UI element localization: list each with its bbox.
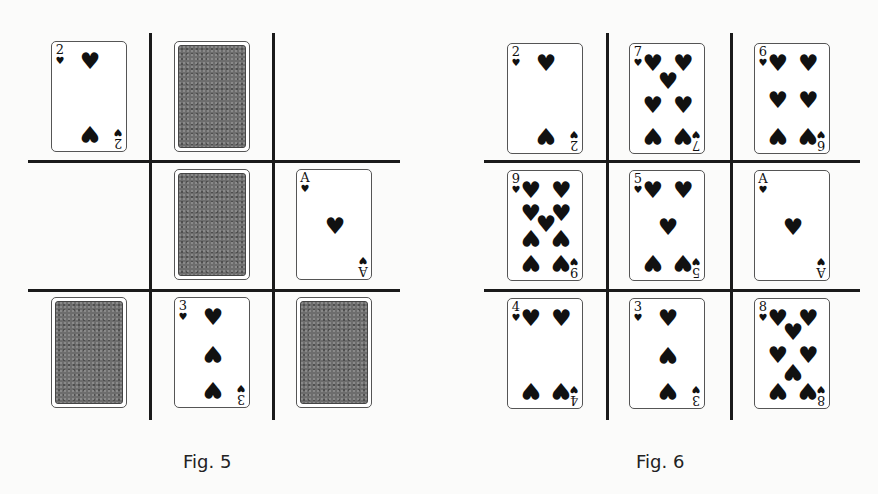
heart-suit-icon: ♥ [55,56,65,66]
card-5-of-hearts[interactable]: 5♥5♥♥♥♥♥♥ [629,170,705,281]
heart-pip-icon: ♥ [642,95,663,115]
card-2-of-hearts[interactable]: 2♥2♥♥♥ [507,43,583,154]
grid-vertical-line [149,33,152,420]
heart-pip-icon: ♥ [798,90,819,110]
card-index-bottom: 2♥ [569,129,579,151]
card-back-pattern [300,301,368,404]
grid-horizontal-line [28,160,400,163]
grid-horizontal-line [484,160,860,163]
card-index-top: 2♥ [55,44,65,66]
heart-pip-icon: ♥ [551,253,572,273]
card-rank-label: 2 [114,136,122,151]
card-4-of-hearts[interactable]: 4♥4♥♥♥♥♥ [507,298,583,409]
heart-pip-icon: ♥ [551,180,572,200]
heart-pip-icon: ♥ [80,51,101,71]
heart-suit-icon: ♥ [178,312,188,322]
heart-pip-icon: ♥ [203,344,224,364]
heart-suit-icon: ♥ [511,58,521,68]
card-face-down[interactable] [51,297,127,408]
heart-pip-icon: ♥ [658,308,679,328]
card-face-down[interactable] [174,169,250,280]
grid-horizontal-line [484,289,860,292]
card-9-of-hearts[interactable]: 9♥9♥♥♥♥♥♥♥♥♥♥ [507,170,583,281]
heart-pip-icon: ♥ [658,381,679,401]
heart-pip-icon: ♥ [203,307,224,327]
heart-pip-icon: ♥ [551,381,572,401]
heart-pip-icon: ♥ [798,53,819,73]
heart-pip-icon: ♥ [658,345,679,365]
heart-suit-icon: ♥ [569,129,579,139]
grid-horizontal-line [28,289,400,292]
heart-pip-icon: ♥ [673,253,694,273]
card-index-bottom: A♥ [816,256,826,278]
heart-pip-icon: ♥ [798,126,819,146]
card-index-top: A♥ [758,173,768,195]
heart-pip-icon: ♥ [673,180,694,200]
card-index-bottom: 2♥ [113,127,123,149]
card-index-top: 3♥ [178,300,188,322]
heart-suit-icon: ♥ [758,185,768,195]
card-rank-label: 2 [570,138,578,153]
heart-pip-icon: ♥ [520,308,541,328]
card-back-pattern [178,173,246,276]
heart-pip-icon: ♥ [536,126,557,146]
card-8-of-hearts[interactable]: 8♥8♥♥♥♥♥♥♥♥♥ [754,298,830,409]
heart-suit-icon: ♥ [816,256,826,266]
heart-pip-icon: ♥ [673,126,694,146]
grid-vertical-line [606,33,609,420]
heart-pip-icon: ♥ [642,180,663,200]
card-rank-label: A [816,265,825,280]
heart-pip-icon: ♥ [798,381,819,401]
card-rank-label: A [358,264,367,279]
figure-caption: Fig. 6 [636,451,684,472]
heart-pip-icon: ♥ [520,228,541,248]
grid-vertical-line [272,33,275,420]
heart-pip-icon: ♥ [783,217,804,237]
card-face-down[interactable] [296,297,372,408]
heart-pip-icon: ♥ [520,253,541,273]
heart-pip-icon: ♥ [767,53,788,73]
card-3-of-hearts[interactable]: 3♥3♥♥♥♥ [629,298,705,409]
card-index-top: 2♥ [511,46,521,68]
heart-pip-icon: ♥ [80,124,101,144]
heart-pip-icon: ♥ [767,126,788,146]
heart-suit-icon: ♥ [300,184,310,194]
heart-pip-icon: ♥ [673,95,694,115]
card-3-of-hearts[interactable]: 3♥3♥♥♥♥ [174,297,250,408]
heart-suit-icon: ♥ [113,127,123,137]
heart-pip-icon: ♥ [536,53,557,73]
card-2-of-hearts[interactable]: 2♥2♥♥♥ [51,41,127,152]
heart-pip-icon: ♥ [658,71,679,91]
heart-pip-icon: ♥ [767,381,788,401]
card-back-pattern [55,301,123,404]
card-A-of-hearts[interactable]: A♥A♥♥ [754,170,830,281]
heart-suit-icon: ♥ [633,313,643,323]
heart-pip-icon: ♥ [642,126,663,146]
heart-pip-icon: ♥ [551,228,572,248]
heart-pip-icon: ♥ [658,217,679,237]
card-index-top: 3♥ [633,301,643,323]
card-A-of-hearts[interactable]: A♥A♥♥ [296,169,372,280]
heart-suit-icon: ♥ [691,384,701,394]
heart-suit-icon: ♥ [236,383,246,393]
card-6-of-hearts[interactable]: 6♥6♥♥♥♥♥♥♥ [754,43,830,154]
card-back-pattern [178,45,246,148]
heart-suit-icon: ♥ [358,255,368,265]
heart-pip-icon: ♥ [551,308,572,328]
heart-pip-icon: ♥ [783,322,804,342]
heart-pip-icon: ♥ [520,381,541,401]
card-7-of-hearts[interactable]: 7♥7♥♥♥♥♥♥♥♥ [629,43,705,154]
card-rank-label: 3 [237,392,245,407]
card-index-bottom: A♥ [358,255,368,277]
card-rank-label: 3 [692,393,700,408]
card-index-bottom: 3♥ [691,384,701,406]
heart-pip-icon: ♥ [642,253,663,273]
card-index-bottom: 3♥ [236,383,246,405]
heart-pip-icon: ♥ [203,380,224,400]
card-index-top: A♥ [300,172,310,194]
heart-pip-icon: ♥ [325,216,346,236]
heart-pip-icon: ♥ [767,90,788,110]
card-face-down[interactable] [174,41,250,152]
grid-vertical-line [730,33,733,420]
figure-caption: Fig. 5 [183,451,231,472]
